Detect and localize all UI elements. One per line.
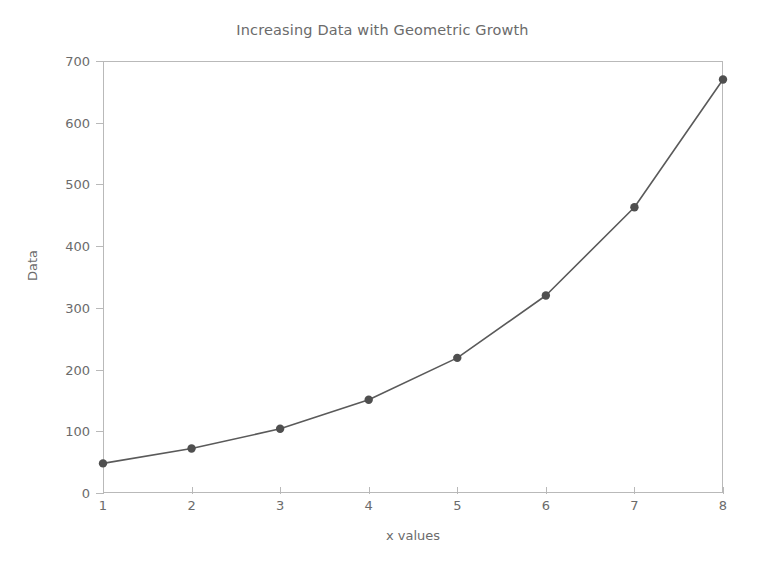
data-point-marker bbox=[99, 459, 107, 467]
data-point-marker bbox=[453, 354, 461, 362]
y-tick-label: 300 bbox=[46, 302, 90, 315]
y-tick-label: 200 bbox=[46, 364, 90, 377]
y-tick-mark bbox=[96, 184, 103, 185]
data-point-marker bbox=[719, 75, 727, 83]
data-point-markers bbox=[99, 75, 727, 467]
data-series-plot bbox=[103, 61, 723, 493]
x-tick-mark bbox=[723, 487, 724, 494]
chart-title: Increasing Data with Geometric Growth bbox=[0, 22, 765, 38]
data-line bbox=[103, 80, 723, 464]
x-tick-label: 5 bbox=[437, 499, 477, 512]
x-tick-label: 6 bbox=[526, 499, 566, 512]
data-point-marker bbox=[630, 203, 638, 211]
y-tick-mark bbox=[96, 123, 103, 124]
y-tick-mark bbox=[96, 493, 103, 494]
data-point-marker bbox=[276, 425, 284, 433]
y-tick-label: 500 bbox=[46, 178, 90, 191]
x-tick-label: 3 bbox=[260, 499, 300, 512]
data-point-marker bbox=[365, 396, 373, 404]
x-axis-label: x values bbox=[103, 528, 723, 543]
y-tick-mark bbox=[96, 370, 103, 371]
y-tick-label: 400 bbox=[46, 240, 90, 253]
y-tick-label: 100 bbox=[46, 425, 90, 438]
x-tick-label: 8 bbox=[703, 499, 743, 512]
data-point-marker bbox=[187, 444, 195, 452]
y-tick-mark bbox=[96, 61, 103, 62]
y-tick-mark bbox=[96, 431, 103, 432]
y-tick-label: 600 bbox=[46, 117, 90, 130]
y-tick-mark bbox=[96, 308, 103, 309]
y-tick-mark bbox=[96, 246, 103, 247]
data-point-marker bbox=[542, 291, 550, 299]
x-tick-label: 1 bbox=[83, 499, 123, 512]
chart-figure: Increasing Data with Geometric Growth 01… bbox=[0, 0, 765, 573]
x-tick-label: 2 bbox=[172, 499, 212, 512]
x-tick-label: 7 bbox=[614, 499, 654, 512]
x-tick-label: 4 bbox=[349, 499, 389, 512]
y-axis-label: Data bbox=[25, 226, 40, 306]
y-tick-label: 700 bbox=[46, 55, 90, 68]
